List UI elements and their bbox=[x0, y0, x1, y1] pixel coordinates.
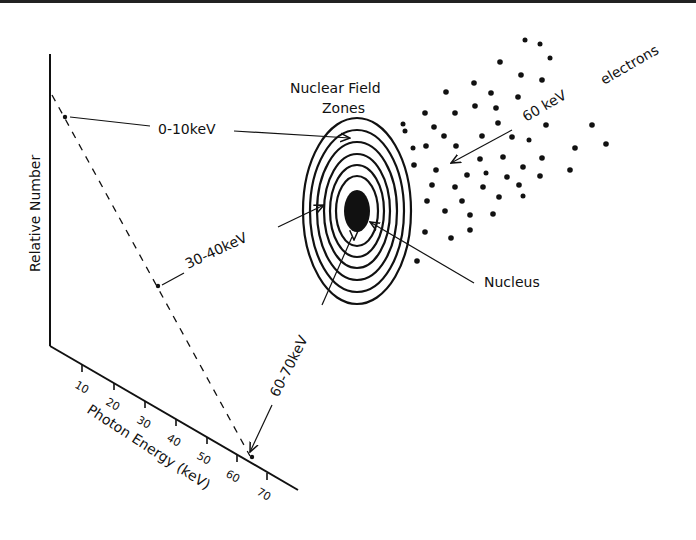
nucleus-label: Nucleus bbox=[484, 274, 540, 290]
beam-particle-label: electrons bbox=[598, 41, 662, 87]
spectrum-dashed-line bbox=[52, 95, 250, 456]
point-60-70 bbox=[250, 455, 254, 459]
arrow-60-70kev: 60-70keV bbox=[250, 237, 354, 452]
svg-text:30-40keV: 30-40keV bbox=[183, 229, 250, 272]
arrow-0-10kev: 0-10keV bbox=[70, 117, 350, 138]
svg-text:50: 50 bbox=[195, 449, 214, 467]
beam-energy-label: 60 keV bbox=[520, 86, 570, 124]
y-axis-label: Relative Number bbox=[27, 155, 43, 272]
svg-text:70: 70 bbox=[255, 485, 274, 503]
x-tick-labels: 10 20 30 40 50 60 70 bbox=[73, 378, 274, 503]
svg-text:0-10keV: 0-10keV bbox=[158, 121, 216, 137]
svg-text:60-70keV: 60-70keV bbox=[266, 332, 311, 399]
bremsstrahlung-diagram: 10 20 30 40 50 60 70 Relative Number Pho… bbox=[0, 0, 696, 540]
svg-text:10: 10 bbox=[73, 378, 92, 396]
top-border bbox=[0, 0, 696, 3]
nucleus bbox=[344, 190, 370, 232]
svg-text:60: 60 bbox=[224, 467, 243, 485]
x-axis-label: Photon Energy (keV) bbox=[84, 401, 213, 493]
point-30-40 bbox=[156, 284, 160, 288]
svg-text:40: 40 bbox=[165, 431, 184, 449]
field-title-line1: Nuclear Field bbox=[290, 80, 381, 96]
field-title-line2: Zones bbox=[322, 100, 365, 116]
point-0-10 bbox=[63, 115, 67, 119]
electron-cloud bbox=[401, 38, 609, 264]
arrow-30-40kev: 30-40keV bbox=[162, 205, 324, 285]
